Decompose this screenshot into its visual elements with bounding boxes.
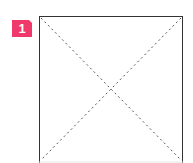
image-placeholder <box>39 16 183 163</box>
badge-label: 1 <box>18 21 25 36</box>
crossed-box-icon <box>39 16 183 163</box>
step-number-badge: 1 <box>12 20 32 37</box>
